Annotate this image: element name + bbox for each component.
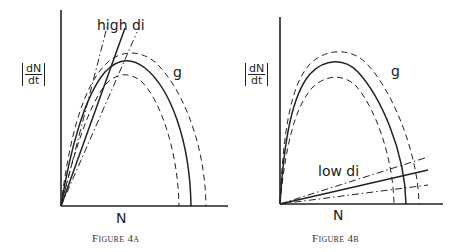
growth-curve-lower-dashed-4a: [61, 75, 179, 206]
y-label-denominator-4a: dt: [25, 75, 42, 86]
y-axis-label-4a: dN dt: [22, 63, 45, 86]
curve-label-g-4a: g: [173, 64, 182, 80]
diagram-canvas: [0, 0, 466, 252]
y-axis-label-4b: dN dt: [245, 63, 268, 86]
figure-4a-plot: [61, 10, 228, 206]
x-axis-label-4a: N: [116, 210, 126, 226]
high-di-label: high di: [97, 17, 145, 33]
curve-label-g-4b: g: [391, 63, 400, 79]
high-di-line-solid-4a: [61, 28, 125, 206]
low-di-label: low di: [318, 163, 359, 179]
figure-caption-4a: Figure 4a: [92, 232, 139, 244]
figure-4b-plot: [280, 17, 443, 204]
high-di-line-lower-dashdot-4a: [61, 32, 137, 206]
y-label-denominator-4b: dt: [248, 75, 265, 86]
x-axis-label-4b: N: [333, 207, 343, 223]
figure-caption-4b: Figure 4b: [312, 232, 359, 244]
growth-curve-g-4b: [280, 62, 406, 204]
growth-curve-upper-dashed-4a: [61, 53, 206, 206]
